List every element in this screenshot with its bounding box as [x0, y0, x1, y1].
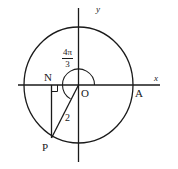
y-axis-label: y [96, 5, 100, 14]
geometry-figure: y x O A N P 2 4π 3 [0, 0, 178, 169]
point-label-a: A [135, 88, 143, 99]
point-label-n: N [44, 72, 52, 83]
segment-length-label-op: 2 [65, 113, 70, 123]
point-label-p: P [42, 142, 48, 153]
angle-denominator: 3 [62, 60, 73, 69]
figure-canvas [0, 0, 178, 169]
angle-numerator: 4π [62, 48, 73, 57]
angle-measure-label: 4π 3 [62, 48, 73, 70]
x-axis-label: x [154, 74, 158, 83]
right-angle-marker [52, 85, 58, 92]
point-label-o: O [81, 88, 89, 99]
